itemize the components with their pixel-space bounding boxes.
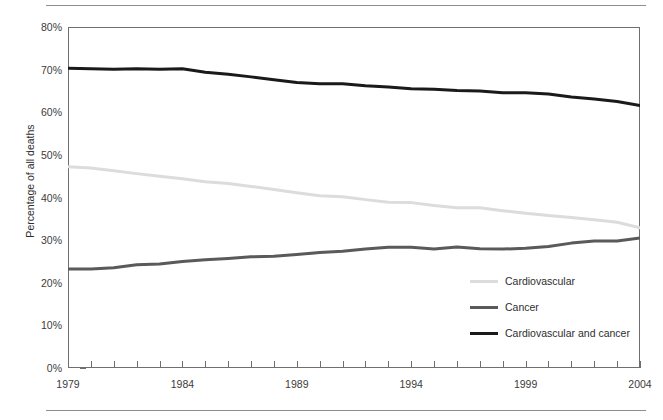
x-tick-mark [160,361,161,368]
legend-swatch-icon [470,332,498,335]
x-tick-mark [114,361,115,368]
x-tick-mark [411,361,412,368]
chart-figure: Percentage of all deaths 0%10%20%30%40%5… [0,0,663,420]
x-tick-mark [640,361,641,368]
x-tick-mark [274,361,275,368]
x-tick-mark [365,361,366,368]
x-tick-mark [480,361,481,368]
legend-label: Cardiovascular and cancer [505,327,630,339]
x-tick-mark [526,361,527,368]
x-tick-mark [137,361,138,368]
x-tick-mark [205,361,206,368]
x-tick-mark [182,361,183,368]
x-tick-label: 1984 [171,378,194,390]
x-tick-mark [548,361,549,368]
x-tick-mark [434,361,435,368]
x-tick-label: 1994 [400,378,423,390]
x-axis-tick-labels: 197919841989199419992004 [0,0,663,420]
legend-item: Cardiovascular and cancer [470,320,660,346]
x-tick-mark [457,361,458,368]
x-tick-mark [320,361,321,368]
legend-item: Cardiovascular [470,268,660,294]
x-tick-label: 1999 [514,378,537,390]
legend-label: Cardiovascular [505,275,575,287]
chart-legend: CardiovascularCancerCardiovascular and c… [470,268,660,346]
legend-swatch-icon [470,306,498,309]
x-tick-mark [503,361,504,368]
x-tick-mark [617,361,618,368]
x-tick-mark [571,361,572,368]
x-tick-mark [388,361,389,368]
legend-label: Cancer [505,301,539,313]
x-tick-label: 1979 [56,378,79,390]
x-tick-mark [91,361,92,368]
x-tick-label: 1989 [285,378,308,390]
x-tick-mark [297,361,298,368]
x-tick-mark [343,361,344,368]
x-tick-mark [251,361,252,368]
x-tick-mark [594,361,595,368]
legend-item: Cancer [470,294,660,320]
legend-swatch-icon [470,280,498,283]
x-tick-label: 2004 [628,378,651,390]
x-tick-mark [68,361,69,368]
x-tick-mark [228,361,229,368]
